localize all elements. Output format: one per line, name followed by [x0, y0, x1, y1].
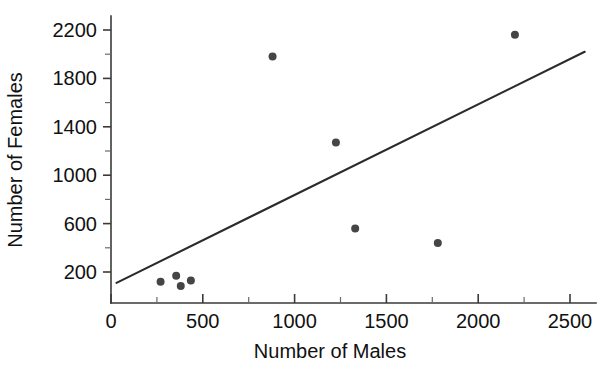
- y-axis-ticks: [103, 30, 111, 272]
- x-tick-label: 0: [105, 310, 116, 332]
- y-tick-label: 1800: [53, 67, 98, 89]
- x-axis-title: Number of Males: [254, 340, 406, 362]
- y-tick-label: 600: [64, 213, 97, 235]
- data-point: [177, 282, 185, 290]
- y-tick-label: 200: [64, 261, 97, 283]
- data-point: [332, 139, 340, 147]
- y-tick-label: 1400: [53, 116, 98, 138]
- x-tick-label: 2000: [456, 310, 501, 332]
- data-point: [187, 276, 195, 284]
- x-tick-label: 500: [186, 310, 219, 332]
- trend-line-group: [117, 52, 585, 283]
- y-axis-title: Number of Females: [4, 72, 26, 248]
- data-point: [434, 239, 442, 247]
- x-tick-label: 2500: [548, 310, 593, 332]
- data-point: [511, 31, 519, 39]
- data-point: [157, 278, 165, 286]
- x-tick-label: 1500: [364, 310, 409, 332]
- x-axis-ticks: [111, 294, 570, 303]
- y-axis-tick-labels: 2006001000140018002200: [53, 19, 98, 283]
- data-point: [351, 224, 359, 232]
- regression-line: [117, 52, 585, 283]
- x-axis-tick-labels: 05001000150020002500: [105, 310, 592, 332]
- data-point: [269, 53, 277, 61]
- x-tick-label: 1000: [272, 310, 317, 332]
- scatter-plot: 2006001000140018002200 05001000150020002…: [0, 0, 602, 376]
- y-tick-label: 2200: [53, 19, 98, 41]
- data-points-group: [157, 31, 519, 290]
- chart-container: 2006001000140018002200 05001000150020002…: [0, 0, 602, 376]
- y-tick-label: 1000: [53, 164, 98, 186]
- data-point: [172, 272, 180, 280]
